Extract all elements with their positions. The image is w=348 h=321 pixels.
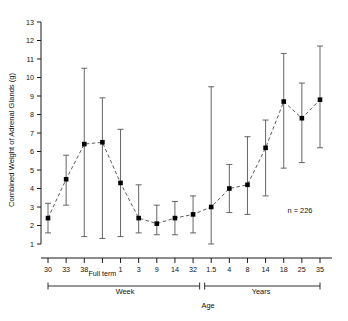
data-point-marker: [136, 216, 141, 221]
x-tick-label: 33: [62, 265, 70, 274]
y-tick-label: 4: [30, 184, 34, 193]
data-point-marker: [191, 212, 196, 217]
data-point-marker: [155, 221, 160, 226]
x-tick-label: 4: [227, 265, 231, 274]
years-bracket-label: Years: [252, 287, 271, 296]
adrenal-weight-chart: Combined Weight of Adrenal Glands (g) 12…: [0, 0, 348, 321]
x-tick-label: 1: [119, 265, 123, 274]
y-tick-label: 9: [30, 92, 34, 101]
full-term-label: Full term: [88, 269, 116, 278]
x-tick-label: 8: [245, 265, 249, 274]
data-point-marker: [64, 177, 69, 182]
x-tick-label: 38: [80, 265, 88, 274]
x-axis-title-text: Age: [202, 301, 215, 310]
x-tick-label: 3: [137, 265, 141, 274]
y-axis-title: Combined Weight of Adrenal Glands (g): [7, 72, 16, 207]
data-point-marker: [227, 186, 232, 191]
data-point-marker: [318, 97, 323, 102]
data-point-marker: [209, 205, 214, 210]
data-point-marker: [263, 146, 268, 151]
x-tick-label: 30: [44, 265, 52, 274]
y-tick-label: 6: [30, 147, 34, 156]
y-tick-label: 8: [30, 110, 34, 119]
x-tick-label: 14: [171, 265, 179, 274]
data-point-marker: [300, 116, 305, 121]
data-point-marker: [173, 216, 178, 221]
y-tick-label: 11: [27, 55, 34, 64]
y-tick-label: 7: [30, 129, 34, 138]
data-point-marker: [82, 142, 87, 147]
y-tick-label: 2: [30, 221, 34, 230]
chart-canvas: Combined Weight of Adrenal Glands (g) 12…: [0, 0, 348, 321]
y-tick-label: 3: [30, 203, 34, 212]
sample-size-annotation: n = 226: [288, 206, 313, 215]
x-tick-label: 14: [262, 265, 270, 274]
x-tick-label: 9: [155, 265, 159, 274]
x-tick-label: 25: [298, 265, 306, 274]
data-point-marker: [281, 99, 286, 104]
x-tick-label: 32: [189, 265, 197, 274]
data-point-marker: [245, 183, 250, 188]
data-point-marker: [100, 140, 105, 145]
y-tick-label: 12: [26, 36, 34, 45]
data-point-marker: [118, 181, 123, 186]
y-tick-label: 13: [26, 18, 34, 27]
y-tick-label: 5: [30, 166, 34, 175]
x-tick-label: 35: [316, 265, 324, 274]
x-tick-label: 18: [280, 265, 288, 274]
week-bracket-label: Week: [116, 287, 135, 296]
x-tick-label: 1.5: [206, 265, 216, 274]
y-tick-label: 10: [26, 73, 34, 82]
data-point-marker: [46, 216, 51, 221]
y-tick-label: 1: [30, 240, 34, 249]
y-axis-title-text: Combined Weight of Adrenal Glands (g): [7, 72, 16, 207]
